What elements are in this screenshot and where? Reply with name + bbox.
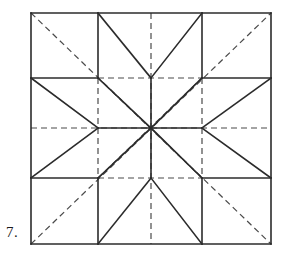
- figure-container: 7.: [0, 0, 283, 256]
- figure-number-label: 7.: [6, 224, 18, 240]
- geometric-figure: [0, 0, 283, 256]
